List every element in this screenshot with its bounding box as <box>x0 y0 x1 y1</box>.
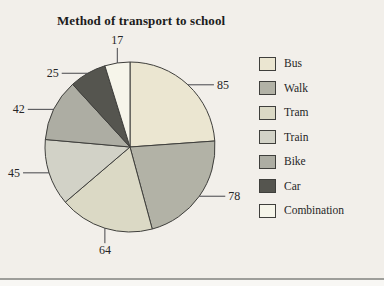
legend-label-walk: Walk <box>284 81 308 96</box>
slice-value-car: 25 <box>47 66 59 80</box>
legend-swatch-bike <box>259 155 276 169</box>
legend-item-tram: Tram <box>259 105 344 120</box>
legend-label-car: Car <box>284 179 301 194</box>
legend-item-walk: Walk <box>259 81 344 96</box>
legend-label-tram: Tram <box>284 105 309 120</box>
legend-label-combination: Combination <box>284 203 344 218</box>
legend-item-combination: Combination <box>259 203 344 218</box>
legend-swatch-combination <box>259 204 276 218</box>
slice-value-walk: 78 <box>228 189 240 203</box>
legend-swatch-bus <box>259 57 276 71</box>
chart-legend: BusWalkTramTrainBikeCarCombination <box>259 56 344 218</box>
figure-page: Method of transport to school 8578644542… <box>0 0 384 286</box>
legend-label-bike: Bike <box>284 154 306 169</box>
legend-swatch-train <box>259 130 276 144</box>
slice-value-bike: 42 <box>13 102 25 116</box>
legend-swatch-tram <box>259 106 276 120</box>
slice-value-bus: 85 <box>217 78 229 92</box>
pie-slice-bus <box>130 62 215 147</box>
slice-value-combination: 17 <box>111 33 123 47</box>
legend-item-bike: Bike <box>259 154 344 169</box>
legend-item-train: Train <box>259 130 344 145</box>
slice-value-train: 45 <box>8 166 20 180</box>
page-edge <box>0 280 384 286</box>
legend-item-bus: Bus <box>259 56 344 71</box>
legend-item-car: Car <box>259 179 344 194</box>
legend-swatch-walk <box>259 81 276 95</box>
legend-swatch-car <box>259 179 276 193</box>
legend-label-train: Train <box>284 130 309 145</box>
slice-value-tram: 64 <box>99 243 111 257</box>
legend-label-bus: Bus <box>284 56 302 71</box>
